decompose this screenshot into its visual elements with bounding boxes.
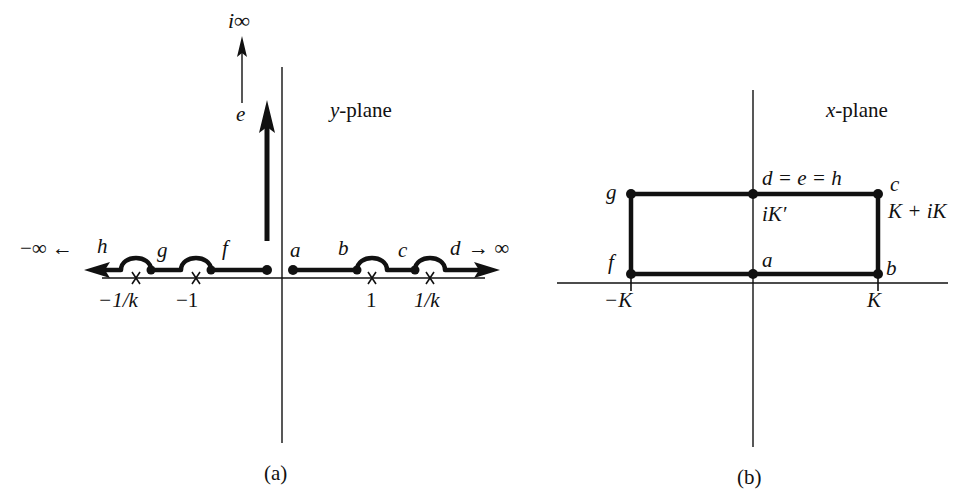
- label-g-corner: g: [606, 182, 617, 203]
- label-minus-infinity: −∞ ←: [20, 238, 73, 259]
- label-a: a: [290, 240, 301, 261]
- caption-b: (b): [737, 467, 762, 488]
- x-plane-title: x-plane: [826, 100, 888, 121]
- point-dot-f: [207, 266, 216, 275]
- point-dot-origin-left: [262, 265, 272, 275]
- corner-dot-c: [873, 189, 883, 199]
- point-dot-a: [288, 265, 298, 275]
- tick-label-minus-1: −1: [176, 290, 198, 311]
- label-d: d: [450, 238, 461, 259]
- corner-dot-f: [626, 269, 636, 279]
- label-iK-prime: iK′: [762, 204, 786, 225]
- point-dot-c: [411, 266, 420, 275]
- period-rectangle: [631, 194, 878, 274]
- tick-label-minus-1-over-k: −1/k: [98, 290, 138, 311]
- label-h: h: [97, 236, 108, 257]
- label-d-e-h: d = e = h: [762, 168, 842, 189]
- tick-label-1-over-k: 1/k: [414, 290, 440, 311]
- caption-a: (a): [264, 463, 287, 484]
- label-i-infinity: i∞: [228, 10, 250, 32]
- x-plane-var: x: [826, 98, 835, 122]
- corner-dot-b: [873, 269, 883, 279]
- label-b-corner: b: [886, 258, 897, 279]
- conformal-map-figure: i∞ e y-plane −∞ ← h g f a b c d → ∞ −1/k…: [0, 0, 978, 503]
- label-c: c: [398, 240, 407, 261]
- corner-dot-a: [748, 269, 758, 279]
- x-plane-suffix: -plane: [835, 98, 887, 122]
- point-dot-b: [353, 266, 362, 275]
- y-plane-title: y-plane: [330, 100, 392, 121]
- label-K-plus-iK: K + iK: [888, 201, 947, 222]
- y-plane-suffix: -plane: [339, 98, 391, 122]
- label-g: g: [157, 240, 168, 261]
- left-contour: [100, 258, 267, 270]
- label-to-infinity: → ∞: [468, 238, 509, 259]
- tick-label-1: 1: [366, 290, 377, 311]
- corner-dot-g: [626, 189, 636, 199]
- label-f: f: [222, 238, 228, 259]
- tick-label-minus-K: −K: [604, 290, 632, 311]
- y-plane-var: y: [330, 98, 339, 122]
- label-f-corner: f: [608, 252, 614, 273]
- corner-dot-d-e-h: [748, 189, 758, 199]
- point-dot-g: [147, 266, 156, 275]
- label-b: b: [338, 238, 349, 259]
- label-c-corner: c: [890, 174, 899, 195]
- tick-label-K: K: [867, 290, 881, 311]
- label-e-vertical: e: [236, 104, 245, 125]
- label-a-corner: a: [762, 250, 773, 271]
